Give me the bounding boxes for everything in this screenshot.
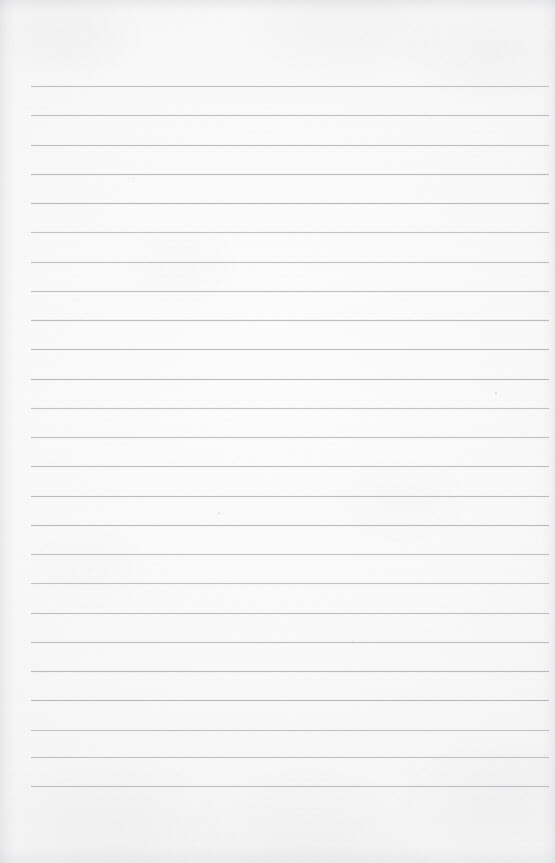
paper-background: [0, 0, 555, 863]
scanned-page: [0, 0, 555, 863]
